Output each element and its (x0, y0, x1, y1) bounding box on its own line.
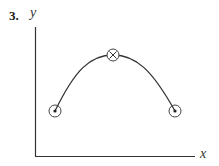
left-endpoint-marker (49, 105, 61, 117)
maximum-x-marker (107, 49, 119, 61)
right-endpoint-marker (169, 105, 181, 117)
plot-area (0, 0, 219, 166)
figure: 3. y x (0, 0, 219, 166)
parabola-curve (55, 55, 175, 111)
